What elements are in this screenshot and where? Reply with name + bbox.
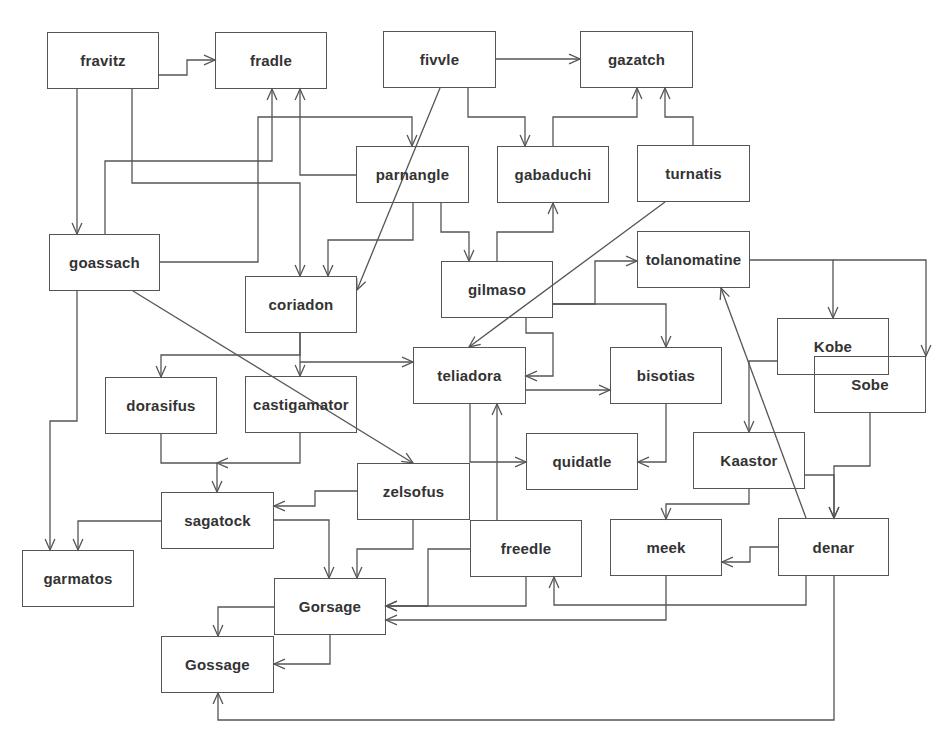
node-dorasifus[interactable]: dorasifus	[105, 377, 217, 434]
edge-kaastor-to-meek	[661, 489, 749, 519]
node-fravitz[interactable]: fravitz	[47, 32, 159, 89]
node-label: fravitz	[80, 52, 126, 69]
node-freedle[interactable]: freedle	[470, 520, 582, 577]
node-label: freedle	[501, 540, 552, 557]
node-label: Kaastor	[720, 452, 777, 469]
edge-gorsage-to-gossage	[213, 607, 274, 636]
node-kaastor[interactable]: Kaastor	[693, 432, 805, 489]
edge-castigamator-to-sagatock	[217, 433, 300, 468]
edge-zelsofus-to-sagatock	[274, 491, 357, 511]
node-label: dorasifus	[126, 397, 195, 414]
node-gossage[interactable]: Gossage	[161, 636, 274, 693]
edge-turnatis-to-gazatch	[660, 88, 693, 145]
node-label: gabaduchi	[515, 166, 592, 183]
node-label: gazatch	[608, 51, 665, 68]
edge-teliadora-to-quidatle	[470, 404, 526, 467]
edge-fivvle-to-gabaduchi	[468, 88, 530, 146]
edge-coriadon-to-dorasifus	[156, 333, 300, 377]
node-quidatle[interactable]: quidatle	[526, 433, 638, 490]
node-tolanomatine[interactable]: tolanomatine	[637, 231, 750, 288]
node-denar[interactable]: denar	[778, 518, 889, 576]
edge-parnangle-to-fradle	[295, 89, 356, 175]
edge-coriadon-to-teliadora	[300, 357, 413, 367]
edge-goassach-to-fradle	[105, 89, 277, 234]
edge-sobe-to-denar	[829, 413, 870, 518]
node-gorsage[interactable]: Gorsage	[274, 578, 386, 635]
node-label: denar	[813, 539, 855, 556]
edge-gilmaso-to-gabaduchi	[497, 203, 558, 261]
node-label: zelsofus	[383, 483, 445, 500]
edge-zelsofus-to-gorsage	[352, 520, 413, 578]
node-goassach[interactable]: goassach	[49, 234, 160, 291]
node-label: Kobe	[814, 338, 852, 355]
node-gabaduchi[interactable]: gabaduchi	[497, 146, 609, 203]
edge-gorsage-to-gossage	[274, 635, 330, 669]
node-parnangle[interactable]: parnangle	[356, 146, 469, 203]
node-meek[interactable]: meek	[610, 519, 722, 576]
node-label: Gorsage	[299, 598, 361, 615]
node-garmatos[interactable]: garmatos	[22, 550, 134, 607]
edge-gilmaso-to-bisotias	[553, 304, 671, 347]
node-sobe[interactable]: Sobe	[814, 356, 926, 413]
node-gilmaso[interactable]: gilmaso	[441, 261, 553, 318]
edge-gabaduchi-to-gazatch	[553, 88, 642, 146]
edge-parnangle-to-gilmaso	[441, 203, 474, 261]
node-label: Gossage	[185, 656, 250, 673]
edge-sagatock-to-gorsage	[274, 520, 334, 578]
edge-parnangle-to-coriadon	[323, 203, 413, 276]
edge-denar-to-freedle	[549, 576, 806, 605]
node-label: castigamator	[253, 396, 349, 413]
node-label: bisotias	[637, 367, 695, 384]
edge-denar-to-meek	[722, 547, 778, 567]
edge-sagatock-to-garmatos	[73, 521, 161, 550]
node-label: parnangle	[376, 166, 449, 183]
node-label: fivvle	[420, 51, 460, 68]
node-gazatch[interactable]: gazatch	[580, 31, 693, 88]
node-label: fradle	[250, 52, 292, 69]
edge-fravitz-to-goassach	[72, 89, 82, 234]
node-zelsofus[interactable]: zelsofus	[357, 463, 470, 520]
node-label: garmatos	[43, 570, 112, 587]
node-teliadora[interactable]: teliadora	[413, 347, 526, 404]
edge-teliadora-to-bisotias	[526, 385, 610, 395]
node-castigamator[interactable]: castigamator	[245, 376, 357, 433]
node-label: tolanomatine	[646, 251, 742, 268]
edge-freedle-to-gorsage	[386, 549, 470, 611]
node-fivvle[interactable]: fivvle	[383, 31, 496, 88]
edge-freedle-to-gorsage	[386, 577, 526, 611]
node-label: coriadon	[269, 296, 334, 313]
node-label: sagatock	[184, 512, 251, 529]
node-label: gilmaso	[468, 281, 526, 298]
edge-tolanomatine-to-kobe	[750, 260, 838, 318]
node-turnatis[interactable]: turnatis	[637, 145, 750, 202]
node-sagatock[interactable]: sagatock	[161, 492, 274, 549]
edge-gilmaso-to-tolanomatine	[553, 256, 637, 304]
edge-goassach-to-garmatos	[45, 291, 77, 550]
node-label: Sobe	[851, 376, 888, 393]
node-label: meek	[646, 539, 685, 556]
node-label: quidatle	[552, 453, 611, 470]
node-label: teliadora	[437, 367, 501, 384]
edge-fravitz-to-fradle	[159, 55, 215, 75]
arrowhead-icon	[401, 453, 413, 463]
node-label: turnatis	[665, 165, 722, 182]
edge-fivvle-to-gazatch	[496, 54, 580, 64]
node-label: goassach	[69, 254, 140, 271]
edge-dorasifus-to-sagatock	[161, 434, 222, 492]
edge-gilmaso-to-teliadora	[526, 318, 553, 381]
node-fradle[interactable]: fradle	[215, 32, 327, 89]
node-coriadon[interactable]: coriadon	[245, 276, 357, 333]
edge-bisotias-to-quidatle	[638, 404, 666, 467]
node-bisotias[interactable]: bisotias	[610, 347, 722, 404]
